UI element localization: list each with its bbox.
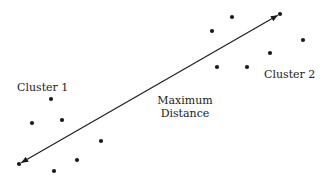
maximum-distance-label: Maximum Distance	[153, 94, 217, 120]
cluster-2-point	[301, 38, 305, 42]
cluster-1-point	[49, 97, 53, 101]
maximum-distance-line-1: Maximum	[153, 94, 217, 107]
cluster-1-point	[17, 162, 21, 166]
cluster-2-point	[245, 65, 249, 69]
cluster-1-point	[99, 139, 103, 143]
cluster-2-points	[210, 12, 305, 69]
cluster-2-point	[210, 29, 214, 33]
cluster-2-point	[230, 15, 234, 19]
cluster-2-point	[268, 51, 272, 55]
maximum-distance-line-2: Distance	[153, 107, 217, 120]
cluster-1-point	[30, 121, 34, 125]
cluster-1-point	[60, 118, 64, 122]
cluster-2-point	[215, 65, 219, 69]
cluster-1-label: Cluster 1	[17, 81, 68, 94]
cluster-2-point	[278, 12, 282, 16]
cluster-1-point	[75, 158, 79, 162]
cluster-1-point	[52, 169, 56, 173]
cluster-1-points	[17, 97, 103, 173]
cluster-2-label: Cluster 2	[264, 68, 315, 81]
